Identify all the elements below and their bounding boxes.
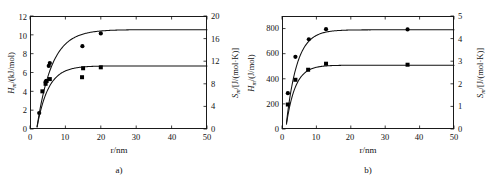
- panel-b: 0 200 400 600 800 0 1 2 3 4 5 0 10 20 30…: [242, 0, 484, 185]
- xtick-b-5: 50: [445, 133, 463, 142]
- plot-frame-b: [282, 16, 454, 129]
- y-axis-title-a: Hm/(kJ/mol): [7, 34, 17, 112]
- y2-axis-title-a-units: /[J/(mol·K)]: [230, 48, 240, 90]
- y2-axis-title-b-symbol: S: [475, 94, 485, 98]
- y2tick-b-4: 4: [458, 35, 474, 44]
- ytick-a-6: 12: [8, 13, 27, 22]
- y2tick-a-4: 16: [211, 35, 229, 44]
- xtick-a-3: 30: [127, 133, 145, 142]
- y-axis-title-a-units: /(kJ/mol): [6, 52, 16, 83]
- y2-axis-title-b: Sm/[J/(mol·K)]: [476, 21, 486, 125]
- y2tick-b-3: 3: [458, 57, 474, 66]
- y-axis-title-b-sub: m: [251, 81, 257, 85]
- panel-caption-a: a): [89, 166, 149, 175]
- y-axis-title-a-symbol: H: [6, 88, 16, 94]
- panel-a: 0 2 4 6 8 10 12 0 4 8 12 16 20 0 10 20 3…: [0, 0, 242, 185]
- xtick-b-2: 20: [341, 133, 359, 142]
- y2tick-b-2: 2: [458, 80, 474, 89]
- x-axis-title-b: r/nm: [338, 146, 398, 155]
- xtick-a-4: 40: [163, 133, 181, 142]
- x-axis-title-a: r/nm: [89, 146, 149, 155]
- y2-axis-title-a: Sm/[J/(mol·K)]: [231, 21, 241, 125]
- y2-axis-title-b-units: /[J/(mol·K)]: [475, 48, 485, 90]
- xtick-b-3: 30: [376, 133, 394, 142]
- plot-frame-a: [30, 16, 207, 129]
- y2tick-b-1: 1: [458, 102, 474, 111]
- xtick-a-0: 0: [21, 133, 39, 142]
- xtick-a-2: 20: [92, 133, 110, 142]
- y2tick-a-3: 12: [211, 57, 229, 66]
- y2-axis-title-b-sub: m: [480, 89, 486, 93]
- y2tick-b-5: 5: [458, 12, 474, 21]
- panel-caption-b: b): [338, 166, 398, 175]
- y2-axis-title-a-symbol: S: [230, 94, 240, 98]
- y-axis-title-b-units: /(J/mol): [246, 54, 256, 81]
- xtick-b-1: 10: [307, 133, 325, 142]
- y-axis-title-b-symbol: H: [246, 86, 256, 92]
- y-axis-title-a-sub: m: [11, 83, 17, 87]
- xtick-a-5: 50: [198, 133, 216, 142]
- xtick-b-0: 0: [273, 133, 291, 142]
- xtick-a-1: 10: [56, 133, 74, 142]
- xtick-b-4: 40: [410, 133, 428, 142]
- y2tick-a-5: 20: [211, 12, 229, 21]
- y2tick-a-1: 4: [211, 102, 229, 111]
- ytick-b-4: 800: [252, 24, 279, 33]
- y2tick-a-2: 8: [211, 80, 229, 89]
- y2-axis-title-a-sub: m: [235, 89, 241, 93]
- y-axis-title-b: Hm/(J/mol): [247, 35, 257, 111]
